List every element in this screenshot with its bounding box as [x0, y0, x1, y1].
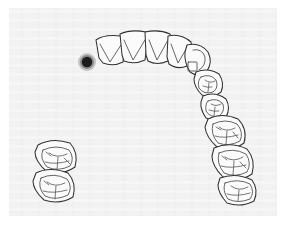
dental-arch-screenshot: Dental arch occlusal diagram: [0, 0, 289, 230]
tooth-molar-right-2: [212, 145, 253, 180]
dental-arch-illustration: [0, 0, 289, 230]
tooth-molar-right-1: [205, 116, 245, 149]
tooth-premolar-right-1: [194, 70, 223, 97]
tooth-molar-left-1: [35, 140, 76, 172]
tooth-molar-left-2: [33, 170, 74, 202]
tooth-molar-right-3: [218, 175, 256, 205]
tooth-anterior-2: [120, 31, 148, 63]
position-marker-dot[interactable]: [78, 53, 96, 71]
